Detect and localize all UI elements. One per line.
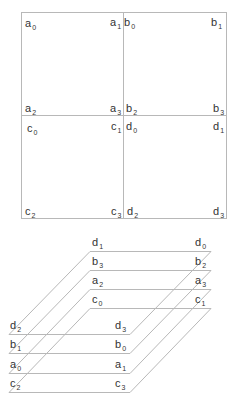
layer-label-front-left: b1 bbox=[10, 338, 21, 352]
layer-label-back-right: d0 bbox=[195, 236, 206, 250]
layer-label-back-left: a2 bbox=[92, 274, 103, 288]
quadrant-grid: a0a1b0b1a2a3b2b3c0c1d0d1c2c3d2d3 bbox=[21, 12, 227, 219]
layer-label-back-right: a3 bbox=[195, 274, 206, 288]
layer-label-back-right: c1 bbox=[195, 293, 206, 307]
stack-layer-d: d1d0d2d3 bbox=[9, 236, 211, 335]
layer-label-back-left: c0 bbox=[92, 293, 103, 307]
corner-label-d3: d3 bbox=[213, 205, 224, 219]
corner-label-c3: c3 bbox=[111, 205, 122, 219]
layer-label-front-right: a1 bbox=[115, 358, 126, 372]
corner-label-a2: a2 bbox=[25, 102, 36, 116]
corner-label-d1: d1 bbox=[213, 120, 224, 134]
corner-label-a3: a3 bbox=[110, 102, 121, 116]
corner-label-d0: d0 bbox=[126, 120, 137, 134]
corner-label-d2: d2 bbox=[127, 205, 138, 219]
layer-label-front-left: a0 bbox=[10, 358, 21, 372]
stack-layer-a: a2a3a0a1 bbox=[9, 274, 211, 374]
layer-label-front-left: d2 bbox=[10, 319, 21, 333]
corner-label-b3: b3 bbox=[213, 102, 224, 116]
corner-label-b1: b1 bbox=[211, 16, 222, 30]
layer-stack: d1d0d2d3b3b2b1b0a2a3a0a1c0c1c2c3 bbox=[9, 236, 211, 393]
tiling-diagram: a0a1b0b1a2a3b2b3c0c1d0d1c2c3d2d3 d1d0d2d… bbox=[0, 0, 235, 415]
corner-label-c1: c1 bbox=[111, 120, 122, 134]
corner-label-a0: a0 bbox=[25, 17, 36, 31]
corner-label-c0: c0 bbox=[27, 122, 38, 136]
corner-label-c2: c2 bbox=[25, 205, 36, 219]
layer-label-back-right: b2 bbox=[195, 255, 206, 269]
layer-label-back-left: d1 bbox=[92, 236, 103, 250]
corner-label-b2: b2 bbox=[126, 102, 137, 116]
corner-label-b0: b0 bbox=[124, 16, 135, 30]
layer-label-front-right: d3 bbox=[115, 319, 126, 333]
grid-labels: a0a1b0b1a2a3b2b3c0c1d0d1c2c3d2d3 bbox=[25, 16, 224, 219]
layer-label-front-right: c3 bbox=[115, 377, 126, 391]
layer-label-back-left: b3 bbox=[92, 255, 103, 269]
corner-label-a1: a1 bbox=[110, 16, 121, 30]
layer-label-front-right: b0 bbox=[115, 338, 126, 352]
layer-label-front-left: c2 bbox=[10, 377, 21, 391]
